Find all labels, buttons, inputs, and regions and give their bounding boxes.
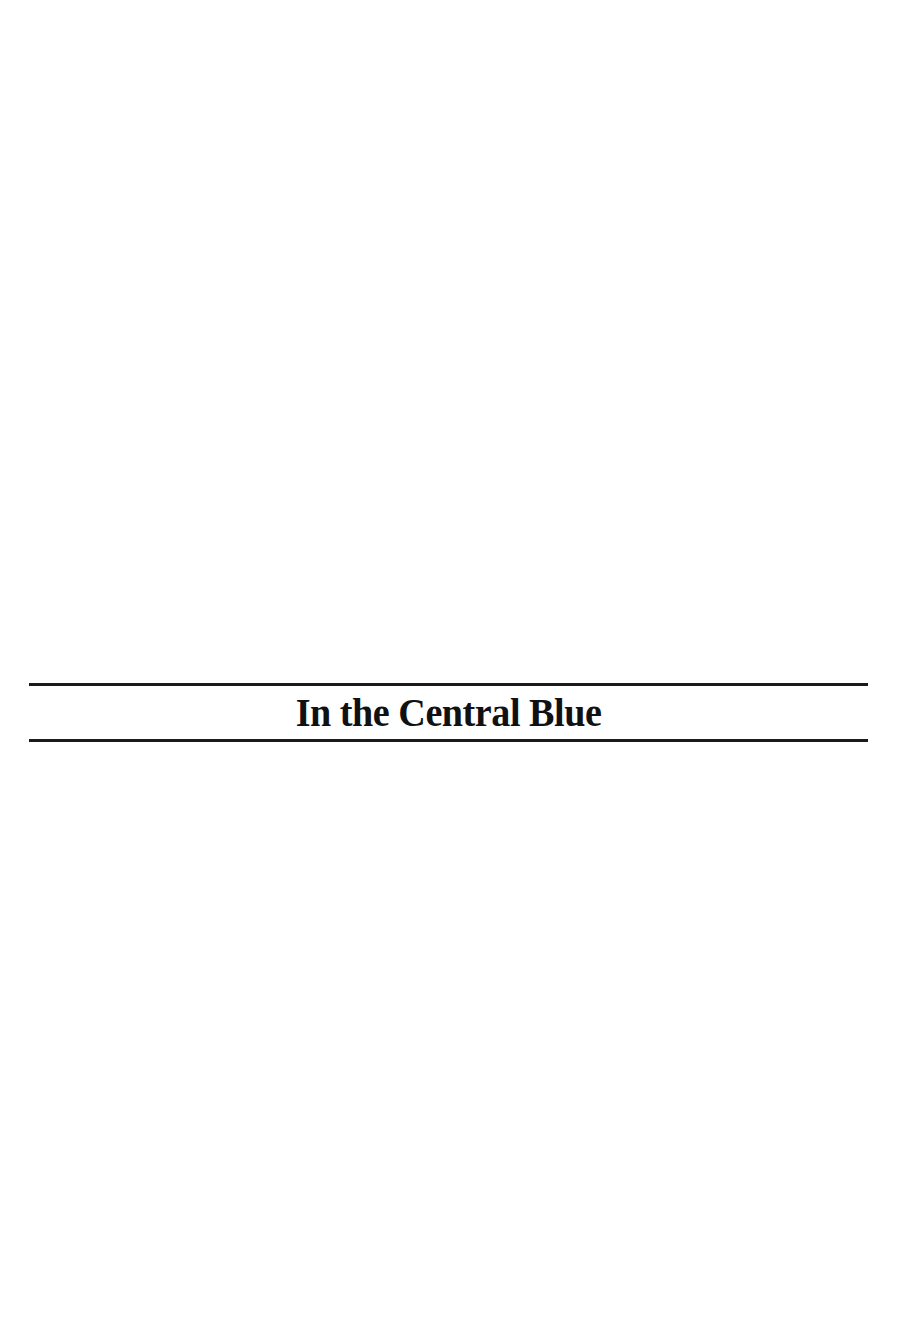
bottom-rule <box>29 739 868 742</box>
page-title: In the Central Blue <box>58 686 838 739</box>
title-block: In the Central Blue <box>29 683 868 742</box>
